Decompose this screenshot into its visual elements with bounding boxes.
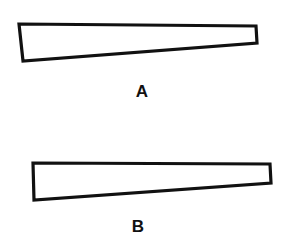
wedge-shape-b bbox=[33, 163, 271, 200]
wedge-shape-a bbox=[19, 24, 257, 61]
label-a: A bbox=[136, 82, 148, 101]
label-b: B bbox=[132, 217, 144, 236]
wedge-diagram: A B bbox=[0, 0, 281, 247]
